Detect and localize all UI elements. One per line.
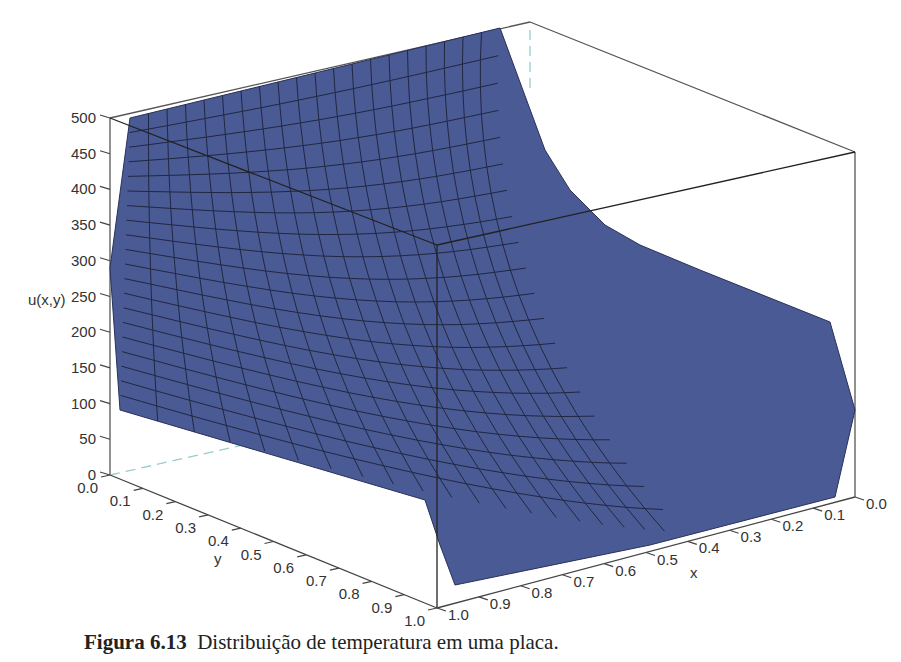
x-tick-label: 0.4 xyxy=(699,539,720,556)
z-axis-title: u(x,y) xyxy=(28,291,66,308)
surface-plot: 050100150200250300350400450500 u(x,y) 0.… xyxy=(0,0,901,662)
y-tick-label: 0.9 xyxy=(371,599,392,616)
y-tick-label: 0.6 xyxy=(273,559,294,576)
x-tick-label: 0.0 xyxy=(866,495,887,512)
z-tick-label: 350 xyxy=(71,216,96,233)
z-tick-label: 150 xyxy=(71,359,96,376)
x-tick-label: 0.6 xyxy=(615,562,636,579)
z-tick-label: 300 xyxy=(71,252,96,269)
y-tick-label: 0.5 xyxy=(241,546,262,563)
y-tick-label: 0.4 xyxy=(208,532,229,549)
x-tick-label: 0.2 xyxy=(782,517,803,534)
figure-caption-label: Figura 6.13 xyxy=(84,630,187,654)
z-tick-label: 200 xyxy=(71,323,96,340)
y-tick-label: 0.7 xyxy=(306,572,327,589)
x-axis-title: x xyxy=(690,564,698,581)
y-axis-title: y xyxy=(214,550,222,567)
y-tick-label: 0.3 xyxy=(175,519,196,536)
x-tick-label: 0.7 xyxy=(573,573,594,590)
z-tick-label: 250 xyxy=(71,288,96,305)
z-axis: 050100150200250300350400450500 xyxy=(71,109,110,483)
z-tick-label: 100 xyxy=(71,395,96,412)
x-tick-label: 0.8 xyxy=(532,584,553,601)
z-tick-label: 50 xyxy=(79,430,96,447)
z-tick-label: 400 xyxy=(71,180,96,197)
temperature-surface xyxy=(110,28,855,585)
y-tick-label: 0.1 xyxy=(110,492,131,509)
y-tick-label: 0.0 xyxy=(77,479,98,496)
x-tick-label: 0.5 xyxy=(657,551,678,568)
y-tick-label: 1.0 xyxy=(404,612,425,629)
x-tick-label: 0.9 xyxy=(490,595,511,612)
y-tick-label: 0.8 xyxy=(339,585,360,602)
figure-caption: Figura 6.13 Distribuição de temperatura … xyxy=(84,630,559,655)
x-tick-label: 0.3 xyxy=(741,528,762,545)
x-tick-label: 0.1 xyxy=(824,506,845,523)
z-tick-label: 500 xyxy=(71,109,96,126)
y-tick-label: 0.2 xyxy=(143,506,164,523)
x-tick-label: 1.0 xyxy=(448,606,469,623)
figure-caption-text: Distribuição de temperatura em uma placa… xyxy=(197,630,559,654)
y-axis: 0.00.10.20.30.40.50.60.70.80.91.0 xyxy=(77,475,437,629)
z-tick-label: 450 xyxy=(71,145,96,162)
